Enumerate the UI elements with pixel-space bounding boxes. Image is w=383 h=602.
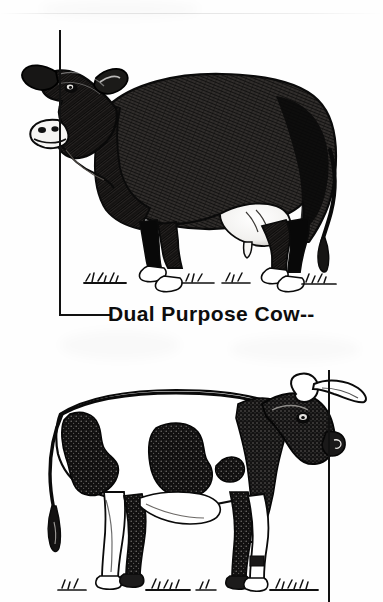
caption-dual-purpose-cow: Dual Purpose Cow-- (108, 303, 315, 324)
figure-spotted-cow-horned (0, 370, 383, 602)
top-leader-horizontal (59, 314, 112, 316)
figure-dual-purpose-cow-dark (0, 0, 383, 340)
spotted-cow-udder (140, 492, 220, 524)
illustration-page: Dual Purpose Cow-- (0, 0, 383, 602)
bottom-leader-vertical (328, 370, 330, 602)
top-leader-vertical (59, 30, 61, 316)
